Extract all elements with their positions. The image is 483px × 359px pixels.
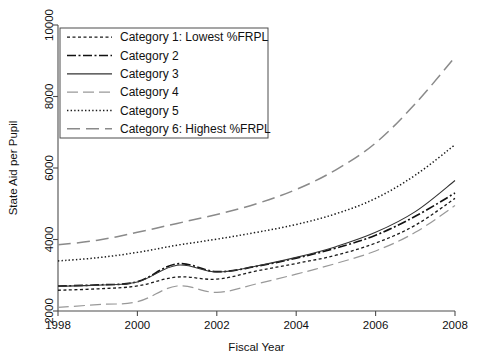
chart-figure: 200040006000800010000 199820002002200420… (0, 0, 483, 359)
line-chart-canvas: 200040006000800010000 199820002002200420… (0, 0, 483, 359)
x-axis-title: Fiscal Year (228, 341, 284, 353)
x-tick-label: 2006 (363, 319, 389, 331)
legend: Category 1: Lowest %FRPLCategory 2Catego… (60, 28, 271, 138)
legend-label-2: Category 2 (120, 49, 179, 63)
y-tick-label: 6000 (43, 155, 55, 181)
x-axis-ticks (58, 311, 455, 316)
x-tick-label: 2008 (442, 319, 468, 331)
y-axis-tick-labels: 200040006000800010000 (43, 9, 55, 324)
x-tick-label: 2004 (283, 319, 309, 331)
legend-label-1: Category 1: Lowest %FRPL (120, 30, 268, 44)
y-tick-label: 10000 (43, 9, 55, 41)
x-tick-label: 1998 (45, 319, 71, 331)
series-line-2 (58, 193, 455, 286)
legend-label-5: Category 5 (120, 104, 179, 118)
legend-label-4: Category 4 (120, 85, 179, 99)
y-axis-title: State Aid per Pupil (7, 121, 19, 216)
legend-label-6: Category 6: Highest %FRPL (120, 122, 271, 136)
legend-label-3: Category 3 (120, 67, 179, 81)
series-line-4 (58, 206, 455, 308)
y-tick-label: 8000 (43, 84, 55, 110)
series-line-1 (58, 198, 455, 290)
series-line-5 (58, 145, 455, 261)
x-tick-label: 2000 (125, 319, 151, 331)
x-tick-label: 2002 (204, 319, 230, 331)
x-axis-tick-labels: 199820002002200420062008 (45, 319, 468, 331)
y-tick-label: 4000 (43, 227, 55, 253)
